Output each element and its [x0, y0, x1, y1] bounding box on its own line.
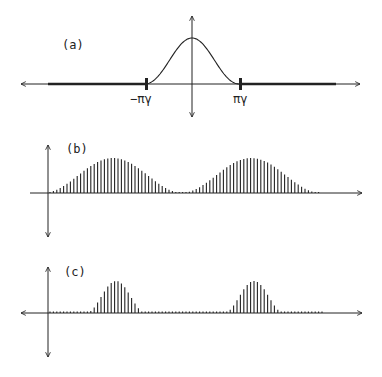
pi-gamma-label: πγ	[233, 92, 247, 106]
panel-c-label: (c)	[64, 265, 86, 279]
figure-canvas	[0, 0, 382, 377]
panel-a-label: (a)	[62, 38, 84, 52]
panel-c	[21, 267, 362, 357]
panel-b-label: (b)	[66, 142, 88, 156]
panel-a	[21, 16, 360, 117]
panel-b-stems	[50, 158, 319, 193]
panel-c-stems	[50, 281, 322, 313]
panel-b	[30, 145, 362, 237]
panel-a-bell-curve	[146, 38, 240, 84]
neg-pi-gamma-label: −πγ	[130, 92, 152, 106]
